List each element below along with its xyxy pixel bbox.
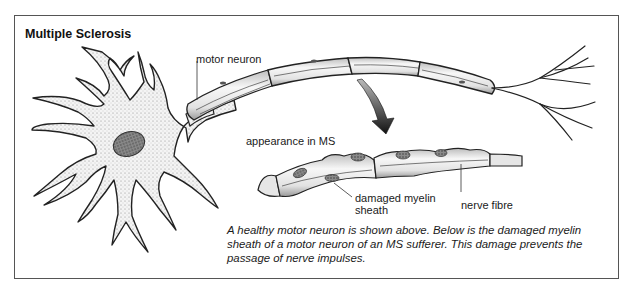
arrow-icon xyxy=(357,79,394,134)
caption-line: passage of nerve impulses. xyxy=(227,251,617,265)
label-damaged-myelin: damaged myelin xyxy=(355,192,436,204)
caption-line: A healthy motor neuron is shown above. B… xyxy=(227,223,617,237)
label-appearance-in-ms: appearance in MS xyxy=(246,135,335,147)
axon-terminals xyxy=(492,46,595,140)
caption: A healthy motor neuron is shown above. B… xyxy=(227,223,617,265)
cell-body xyxy=(32,47,236,252)
diagram-title: Multiple Sclerosis xyxy=(25,27,131,41)
label-sheath: sheath xyxy=(355,204,388,216)
label-nerve-fibre: nerve fibre xyxy=(461,199,513,211)
caption-line: sheath of a motor neuron of an MS suffer… xyxy=(227,237,617,251)
label-motor-neuron: motor neuron xyxy=(196,53,261,65)
